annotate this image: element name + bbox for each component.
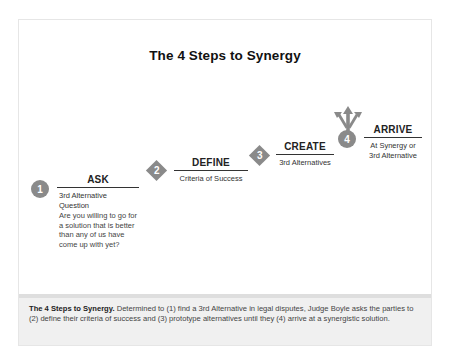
step-2-diamond-icon: 2 bbox=[146, 160, 167, 181]
step-ask-body: Are you willing to go for a solution tha… bbox=[57, 211, 139, 249]
step-ask-subtitle: 3rd Alternative Question bbox=[57, 191, 139, 210]
step-arrive-subtitle-line2: 3rd Alternative bbox=[364, 151, 422, 161]
diagram-frame: The 4 Steps to Synergy 1 ASK 3rd Alterna… bbox=[18, 19, 432, 346]
step-arrive-subtitle-line1: At Synergy or bbox=[364, 141, 422, 151]
step-ask: ASK 3rd Alternative Question Are you wil… bbox=[57, 174, 139, 249]
step-1-number: 1 bbox=[37, 184, 43, 195]
step-4-circle-icon: 4 bbox=[338, 130, 356, 148]
diagram-title: The 4 Steps to Synergy bbox=[19, 48, 431, 63]
step-arrive-subtitle: At Synergy or 3rd Alternative bbox=[364, 141, 422, 160]
step-3-number: 3 bbox=[257, 150, 263, 161]
step-create-subtitle: 3rd Alternatives bbox=[276, 158, 334, 168]
figure-caption: The 4 Steps to Synergy. Determined to (1… bbox=[19, 294, 431, 345]
step-create-title: CREATE bbox=[276, 141, 334, 155]
caption-bold: The 4 Steps to Synergy. bbox=[29, 304, 115, 313]
step-2-number: 2 bbox=[154, 165, 160, 176]
step-4-number: 4 bbox=[344, 134, 350, 145]
step-ask-title: ASK bbox=[57, 174, 139, 188]
step-arrive-title: ARRIVE bbox=[364, 124, 422, 138]
step-define: DEFINE Criteria of Success bbox=[174, 157, 248, 184]
step-arrive: ARRIVE At Synergy or 3rd Alternative bbox=[364, 124, 422, 160]
step-create: CREATE 3rd Alternatives bbox=[276, 141, 334, 168]
step-define-title: DEFINE bbox=[174, 157, 248, 171]
step-3-diamond-icon: 3 bbox=[249, 145, 270, 166]
step-define-subtitle: Criteria of Success bbox=[174, 174, 248, 184]
step-1-circle-icon: 1 bbox=[31, 180, 49, 198]
